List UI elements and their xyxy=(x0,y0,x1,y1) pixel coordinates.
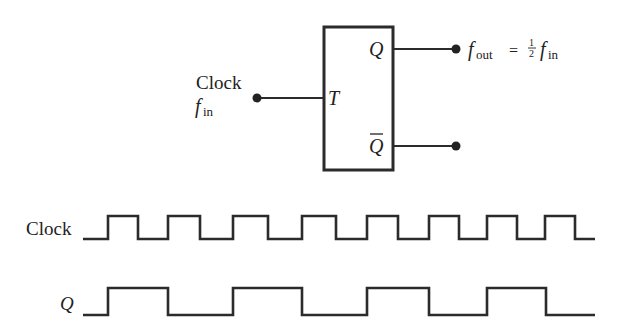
clock-input-label: Clock xyxy=(196,72,242,93)
fin-label-f2: f xyxy=(540,38,548,61)
t-flipflop-diagram: T Q Q Clock f in f out = 1 2 f in Clock … xyxy=(0,0,620,336)
fin-label-f: f xyxy=(195,95,203,118)
fin-label-sub2: in xyxy=(548,47,559,62)
pin-q-label: Q xyxy=(369,38,384,60)
fout-label-sub: out xyxy=(476,47,493,62)
q-waveform-label: Q xyxy=(60,293,74,314)
frac-numerator: 1 xyxy=(529,37,534,48)
fout-label-f: f xyxy=(468,38,476,61)
clock-waveform xyxy=(83,216,595,239)
pin-t-label: T xyxy=(328,87,341,109)
fin-label-sub: in xyxy=(203,104,214,119)
q-output-terminal xyxy=(452,45,461,54)
clock-waveform-label: Clock xyxy=(26,218,72,239)
frac-denominator: 2 xyxy=(529,48,534,59)
q-waveform xyxy=(83,288,595,315)
equals-sign: = xyxy=(509,42,518,59)
clock-input-terminal xyxy=(253,94,262,103)
output-frequency-equation: f out = 1 2 f in xyxy=(468,37,559,62)
qbar-output-terminal xyxy=(452,142,461,151)
pin-qbar-label: Q xyxy=(369,135,384,157)
